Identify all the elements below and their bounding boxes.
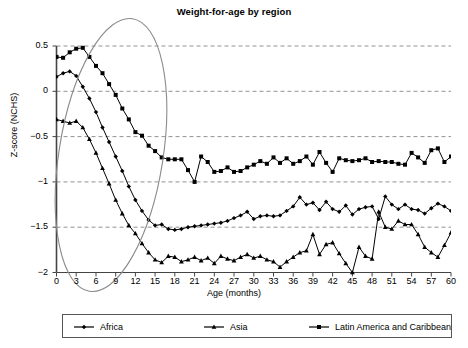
data-point-marker xyxy=(436,146,440,150)
data-point-marker xyxy=(219,221,223,225)
data-point-marker xyxy=(147,144,151,148)
data-point-marker xyxy=(120,211,125,215)
data-point-marker xyxy=(74,47,78,51)
annotation-layer xyxy=(38,11,184,300)
data-point-marker xyxy=(192,255,197,259)
data-series-layer xyxy=(0,46,453,274)
x-tick-label: 51 xyxy=(382,276,402,286)
x-tick-label: 27 xyxy=(224,276,244,286)
data-point-marker xyxy=(258,159,262,163)
data-point-marker xyxy=(100,166,105,170)
data-point-marker xyxy=(101,71,105,75)
data-point-marker xyxy=(114,154,118,158)
data-point-marker xyxy=(0,166,4,170)
legend-item-asia[interactable]: Asia xyxy=(203,320,248,334)
data-point-marker xyxy=(107,140,111,144)
data-point-marker xyxy=(120,169,125,173)
data-point-marker xyxy=(442,243,447,247)
data-point-marker xyxy=(344,158,348,162)
data-point-marker xyxy=(370,204,374,208)
data-point-marker xyxy=(291,255,296,259)
x-tick-label: 57 xyxy=(421,276,441,286)
x-tick-label: 21 xyxy=(185,276,205,286)
data-point-marker xyxy=(278,161,282,165)
x-tick-label: 60 xyxy=(441,276,461,286)
data-point-marker xyxy=(232,216,236,220)
data-point-marker xyxy=(271,214,275,218)
data-point-marker xyxy=(311,232,316,236)
series-asia xyxy=(54,117,453,274)
x-tick-label: 42 xyxy=(323,276,343,286)
data-point-marker xyxy=(357,245,362,249)
data-point-marker xyxy=(206,222,210,226)
x-axis-title: Age (months) xyxy=(0,288,468,298)
data-point-marker xyxy=(436,255,441,259)
series-line xyxy=(57,119,452,272)
x-tick-label: 39 xyxy=(303,276,323,286)
x-tick-label: 15 xyxy=(145,276,165,286)
chart-legend: AfricaAsiaLatin America and Caribbean xyxy=(62,314,452,338)
x-tick-label: 18 xyxy=(165,276,185,286)
y-tick-label: 0.5 xyxy=(14,40,48,50)
data-point-marker xyxy=(245,252,250,256)
legend-swatch-square-icon xyxy=(308,321,330,333)
data-point-marker xyxy=(304,155,308,159)
data-point-marker xyxy=(133,130,137,134)
data-point-marker xyxy=(442,160,446,164)
data-point-marker xyxy=(114,93,118,97)
data-point-marker xyxy=(107,82,111,86)
data-point-marker xyxy=(87,137,92,141)
data-point-marker xyxy=(357,158,361,162)
legend-label: Asia xyxy=(230,322,248,332)
data-point-marker xyxy=(55,55,59,59)
data-point-marker xyxy=(331,170,335,174)
data-point-marker xyxy=(423,161,427,165)
data-point-marker xyxy=(219,169,223,173)
y-tick-label: 0 xyxy=(14,85,48,95)
data-point-marker xyxy=(54,117,59,121)
data-point-marker xyxy=(330,240,335,244)
data-point-marker xyxy=(199,155,203,159)
data-point-marker xyxy=(0,161,4,165)
data-point-marker xyxy=(166,157,170,161)
data-point-marker xyxy=(179,157,183,161)
data-point-marker xyxy=(265,162,269,166)
data-point-marker xyxy=(376,209,381,213)
data-point-marker xyxy=(258,254,263,258)
data-point-marker xyxy=(350,159,354,163)
data-point-marker xyxy=(219,254,224,258)
legend-item-latin-america-and-caribbean[interactable]: Latin America and Caribbean xyxy=(308,320,451,334)
x-tick-label: 33 xyxy=(263,276,283,286)
data-point-marker xyxy=(238,213,242,217)
data-point-marker xyxy=(291,162,295,166)
data-point-marker xyxy=(416,155,420,159)
chart-figure: Weight-for-age by region Z-score (NCHS) … xyxy=(0,0,468,348)
data-point-marker xyxy=(239,169,243,173)
data-point-marker xyxy=(81,85,85,89)
data-point-marker xyxy=(193,180,197,184)
data-point-marker xyxy=(317,325,321,329)
x-tick-label: 6 xyxy=(86,276,106,286)
data-point-marker xyxy=(232,170,236,174)
data-point-marker xyxy=(403,163,407,167)
data-point-marker xyxy=(429,148,433,152)
data-point-marker xyxy=(94,150,99,154)
data-point-marker xyxy=(205,255,210,259)
data-point-marker xyxy=(370,160,374,164)
legend-item-africa[interactable]: Africa xyxy=(73,320,123,334)
data-point-marker xyxy=(54,75,58,79)
data-point-marker xyxy=(449,155,453,159)
data-point-marker xyxy=(449,230,454,234)
data-point-marker xyxy=(0,171,4,175)
data-point-marker xyxy=(61,71,65,75)
data-point-marker xyxy=(173,228,177,232)
data-point-marker xyxy=(186,225,190,229)
data-point-marker xyxy=(318,150,322,154)
x-tick-label: 48 xyxy=(362,276,382,286)
data-point-marker xyxy=(265,213,269,217)
x-tick-label: 30 xyxy=(244,276,264,286)
data-point-marker xyxy=(74,119,79,123)
data-point-marker xyxy=(120,107,124,111)
legend-swatch-diamond-icon xyxy=(73,321,95,333)
x-tick-label: 24 xyxy=(204,276,224,286)
